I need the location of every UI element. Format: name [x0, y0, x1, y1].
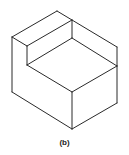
edge: [72, 20, 117, 47]
edge: [72, 103, 117, 129]
figure-caption: (b): [0, 138, 129, 147]
edge: [27, 65, 72, 92]
edge: [12, 92, 72, 129]
isometric-block-drawing: [0, 0, 129, 155]
edge: [57, 11, 72, 20]
edge: [12, 37, 27, 46]
block-edges: [12, 11, 117, 129]
edge: [72, 66, 117, 92]
edge: [72, 38, 117, 66]
